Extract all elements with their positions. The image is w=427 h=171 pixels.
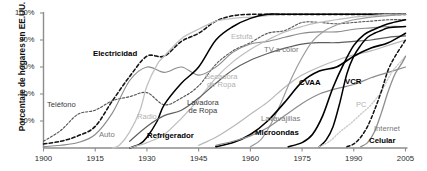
chart-root: Porcentaje de hogares en EE.UU. 20%40%60…	[0, 0, 427, 171]
series-label-internet: Internet	[374, 125, 400, 133]
series-label-telefono: Teléfono	[47, 101, 76, 109]
series-label-auto: Auto	[99, 131, 115, 139]
series-label-microondas: Microondas	[255, 129, 299, 137]
series-label-lavavajillas: Lavavajillas	[261, 115, 300, 123]
series-label-pc: PC	[356, 101, 367, 109]
series-label-tv-a-color: TV a color	[264, 46, 299, 54]
series-label-estufa: Estufa	[231, 33, 253, 41]
series-label-celular: Celular	[369, 137, 395, 145]
series-line-internet	[361, 56, 406, 146]
series-label-cvaa: CVAA	[299, 79, 321, 87]
series-label-refrigerador: Refrigerador	[147, 132, 194, 140]
series-label-electricidad: Electricidad	[93, 50, 137, 58]
series-label-radio: Radio	[137, 113, 157, 121]
series-label-lavadora-de-ropa: Lavadorade Ropa	[187, 99, 219, 115]
series-label-vcr: VCR	[345, 78, 361, 86]
series-label-secadora-de-ropa: Secadorade Ropa	[205, 73, 238, 89]
